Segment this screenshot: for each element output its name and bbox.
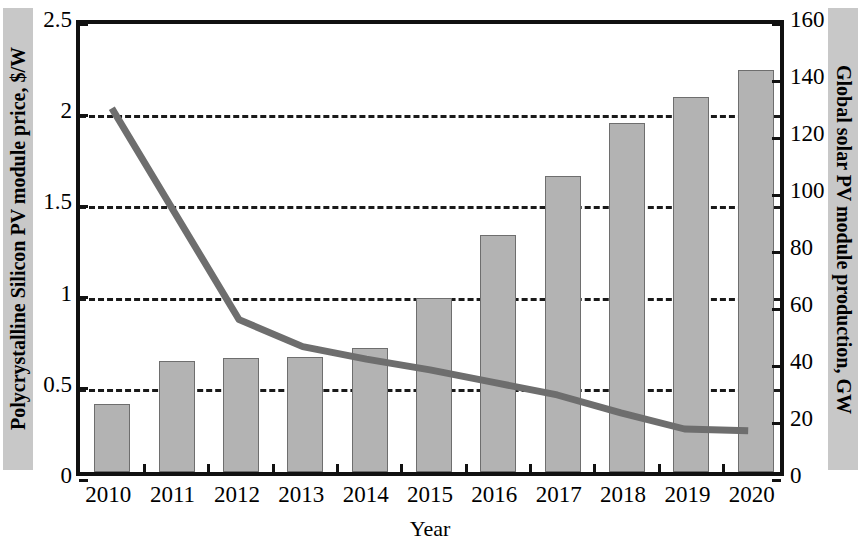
plot-area <box>76 20 784 476</box>
right-tick-label: 140 <box>790 65 848 88</box>
left-tick-label: 1.5 <box>14 190 72 213</box>
left-tick-label: 0 <box>14 464 72 487</box>
x-tickmark <box>722 464 725 473</box>
x-tick-label-2010: 2010 <box>85 481 131 509</box>
x-tickmark <box>529 464 532 473</box>
x-tick-label-2012: 2012 <box>214 481 260 509</box>
x-tick-label-2019: 2019 <box>664 481 710 509</box>
x-tickmark <box>272 464 275 473</box>
x-axis-tick-labels: 2010201120122013201420152016201720182019… <box>76 481 784 513</box>
x-axis-title: Year <box>76 516 784 542</box>
x-tick-label-2016: 2016 <box>471 481 517 509</box>
line-series <box>80 24 780 472</box>
right-tick-label: 40 <box>790 350 848 373</box>
right-tick-label: 120 <box>790 122 848 145</box>
right-tickmark <box>772 422 781 425</box>
right-tick-label: 20 <box>790 407 848 430</box>
right-tickmark <box>772 308 781 311</box>
x-tick-label-2017: 2017 <box>536 481 582 509</box>
left-tickmark <box>79 23 88 26</box>
x-tick-label-2018: 2018 <box>600 481 646 509</box>
price-line <box>112 108 748 431</box>
right-tick-label: 80 <box>790 236 848 259</box>
x-tickmark <box>658 464 661 473</box>
right-tickmark <box>772 194 781 197</box>
right-tick-label: 0 <box>790 464 848 487</box>
left-tickmark <box>79 387 88 390</box>
x-tickmark <box>465 464 468 473</box>
x-tick-label-2013: 2013 <box>278 481 324 509</box>
left-axis-tick-labels: 00.511.522.5 <box>14 0 72 549</box>
x-tickmark <box>143 464 146 473</box>
left-tick-label: 2.5 <box>14 8 72 31</box>
x-tick-label-2011: 2011 <box>150 481 195 509</box>
left-tick-label: 2 <box>14 99 72 122</box>
right-tickmark <box>772 251 781 254</box>
x-tickmark <box>593 464 596 473</box>
right-tickmark <box>772 80 781 83</box>
right-tickmark <box>772 137 781 140</box>
x-tick-label-2020: 2020 <box>729 481 775 509</box>
x-tickmark <box>207 464 210 473</box>
left-tickmark <box>79 296 88 299</box>
right-tick-label: 160 <box>790 8 848 31</box>
left-tickmark <box>79 114 88 117</box>
chart-page: Polycrystalline Silicon PV module price,… <box>0 0 863 549</box>
x-tickmark <box>336 464 339 473</box>
right-tick-label: 60 <box>790 293 848 316</box>
left-tick-label: 1 <box>14 282 72 305</box>
right-tickmark <box>772 23 781 26</box>
left-tickmark <box>79 205 88 208</box>
right-tick-label: 100 <box>790 179 848 202</box>
plot-inner <box>80 24 780 472</box>
right-axis-tick-labels: 020406080100120140160 <box>790 0 848 549</box>
left-tick-label: 0.5 <box>14 373 72 396</box>
right-tickmark <box>772 365 781 368</box>
x-tickmark <box>400 464 403 473</box>
x-tick-label-2014: 2014 <box>343 481 389 509</box>
x-tick-label-2015: 2015 <box>407 481 453 509</box>
